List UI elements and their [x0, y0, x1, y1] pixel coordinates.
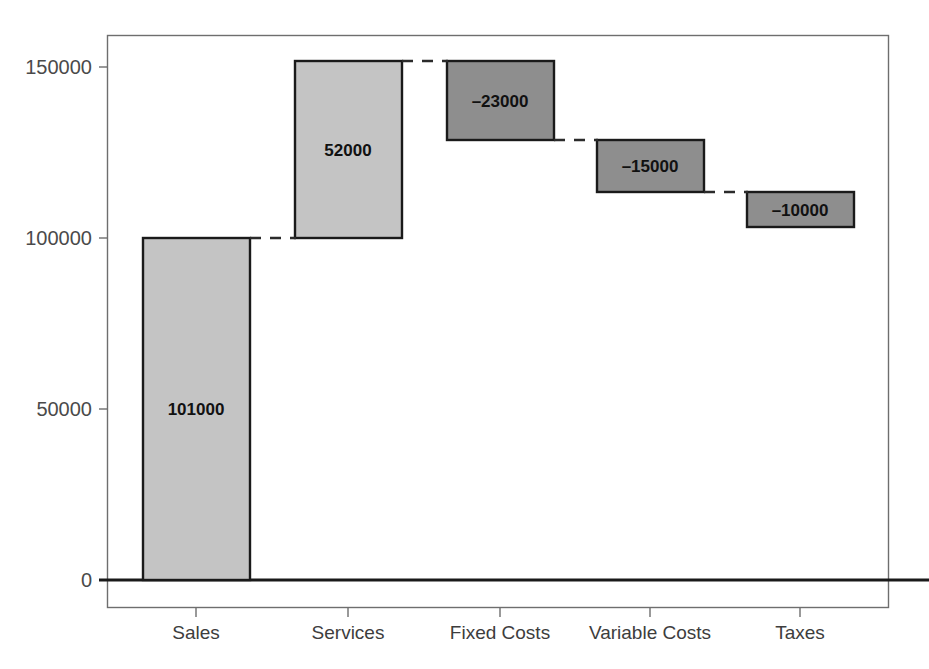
- y-tick-label-0: 0: [81, 569, 92, 591]
- y-tick-label-150000: 150000: [25, 56, 92, 78]
- x-axis-label-fixed-costs: Fixed Costs: [450, 622, 550, 643]
- y-tick-label-100000: 100000: [25, 227, 92, 249]
- x-axis-label-services: Services: [312, 622, 385, 643]
- bar-value-label-variable-costs: –15000: [622, 157, 679, 176]
- bar-value-label-services: 52000: [324, 141, 371, 160]
- bar-value-label-fixed-costs: –23000: [472, 92, 529, 111]
- chart-canvas: 150000 100000 50000 0 101000 52000 –2300…: [0, 0, 929, 669]
- waterfall-chart: 150000 100000 50000 0 101000 52000 –2300…: [0, 0, 929, 669]
- y-tick-label-50000: 50000: [36, 398, 92, 420]
- bar-value-label-taxes: –10000: [772, 201, 829, 220]
- x-axis-label-sales: Sales: [172, 622, 220, 643]
- x-axis-label-taxes: Taxes: [775, 622, 825, 643]
- bar-value-label-sales: 101000: [168, 400, 225, 419]
- x-axis-label-variable-costs: Variable Costs: [589, 622, 711, 643]
